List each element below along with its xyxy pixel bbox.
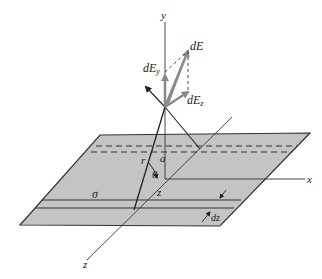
dz-label: dz xyxy=(211,212,220,223)
direction-arrow xyxy=(146,87,165,107)
field-of-charged-plane-diagram: y x z dE dEy dEz r a θ z σ dz xyxy=(0,0,322,279)
theta-label: θ xyxy=(152,168,158,180)
x-axis-label: x xyxy=(306,173,312,185)
dEy-label: dEy xyxy=(143,61,160,76)
dE-label: dE xyxy=(190,39,204,53)
dEz-label: dEz xyxy=(187,93,204,108)
z-axis-label: z xyxy=(82,258,88,270)
r-label: r xyxy=(141,154,146,166)
y-axis-label: y xyxy=(160,9,166,21)
z-distance-label: z xyxy=(156,186,162,198)
a-label: a xyxy=(160,152,166,164)
